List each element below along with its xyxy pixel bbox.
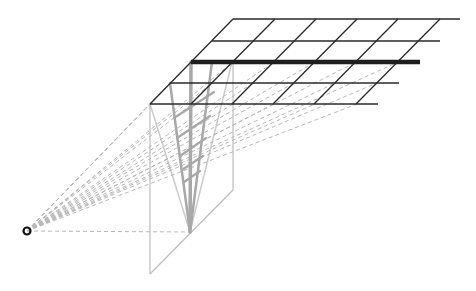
- diagram-canvas: [0, 0, 476, 291]
- sight-lines: [27, 62, 398, 232]
- projected-image: [150, 62, 232, 232]
- ground-grid: [150, 19, 460, 104]
- perspective-diagram: [0, 0, 476, 291]
